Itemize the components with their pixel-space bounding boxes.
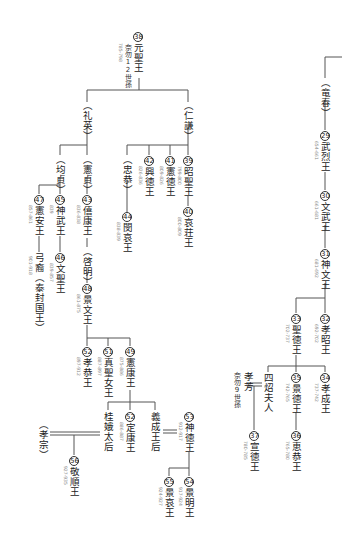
- ancestor-zhonggong: （忠恭）: [122, 155, 132, 195]
- king-node-34: 34孝成王: [320, 373, 330, 414]
- gungye-years: 901-918: [28, 256, 33, 275]
- king-years-51: 897-912: [76, 357, 81, 376]
- king-node-30: 30文武王: [320, 191, 330, 232]
- king-node-56: 56敬順王: [69, 456, 79, 497]
- king-years-50: 887-897: [97, 357, 102, 376]
- guie-queen-node: 桂娥太后: [103, 412, 113, 452]
- ancestor-qiming: （啓明）: [82, 247, 92, 287]
- king-note-38: 奈勿12世孫: [124, 44, 132, 88]
- king-node-51: 52孝恭王: [82, 347, 92, 388]
- yicheng-queen-node: 義成王后: [150, 412, 160, 452]
- king-years-33: 702-737: [285, 324, 290, 343]
- king-years-32: 692-702: [314, 324, 319, 343]
- king-years-54: 917-924: [178, 487, 183, 506]
- king-node-40: 40哀荘王: [183, 207, 193, 248]
- king-node-50: 51真聖女王: [103, 347, 113, 398]
- ancestor-longchun: （竜春）: [320, 78, 330, 118]
- king-years-36: 765-780: [285, 441, 290, 460]
- king-years-30: 661-681: [314, 201, 319, 220]
- king-years-55: 924-927: [158, 487, 163, 506]
- king-node-33: 33聖徳王: [291, 314, 301, 355]
- ancestor-junzhen: （均貞）: [55, 155, 65, 195]
- king-node-36: 36恵恭王: [291, 431, 301, 472]
- king-years-34: 737-742: [314, 383, 319, 402]
- king-node-55: 55景哀王: [164, 477, 174, 518]
- king-years-29: 654-661: [314, 141, 319, 160]
- king-node-43: 43僖康王: [82, 195, 92, 236]
- king-years-46: 839-857: [49, 263, 54, 282]
- king-years-39: 799-800: [177, 166, 182, 185]
- king-node-44: 44閔哀王: [122, 212, 132, 253]
- king-years-52: 886-887: [119, 422, 124, 441]
- king-years-48: 861-875: [76, 294, 81, 313]
- gungye-node: 弓裔（泰封国王）: [34, 253, 44, 333]
- king-years-53: 912-917: [178, 422, 183, 441]
- ancestor-xianzhen: （憲貞）: [82, 155, 92, 195]
- xiaofang-node: 孝芳: [243, 372, 253, 392]
- king-node-54: 54景明王: [184, 477, 194, 518]
- king-node-47: 47憲安王: [34, 195, 44, 236]
- king-years-45: 839: [49, 205, 54, 214]
- king-years-37: 780-785: [243, 441, 248, 460]
- xiaofang-note: 奈勿9世孫: [233, 372, 241, 408]
- king-years-41: 809-826: [159, 166, 164, 185]
- king-node-41: 41憲徳王: [165, 156, 175, 197]
- king-node-38: 38元聖王: [133, 32, 143, 73]
- king-node-37: 37宣徳王: [249, 431, 259, 472]
- king-years-49: 875-886: [119, 357, 124, 376]
- king-node-46: 46文聖王: [55, 253, 65, 294]
- king-node-45: 45神武王: [55, 195, 65, 236]
- king-node-35: 35景徳王: [291, 373, 301, 414]
- king-years-42: 826-836: [138, 166, 143, 185]
- king-years-47: 857-861: [28, 205, 33, 224]
- king-years-40: 800-809: [177, 217, 182, 236]
- king-years-43: 836-838: [76, 205, 81, 224]
- ancestor-liying: （礼英）: [82, 101, 92, 141]
- king-years-56: 927-935: [63, 466, 68, 485]
- king-node-32: 32孝昭王: [320, 314, 330, 355]
- king-node-31: 31神文王: [320, 249, 330, 290]
- king-node-49: 49憲康王: [125, 347, 135, 388]
- king-years-44: 838-839: [116, 222, 121, 241]
- genealogy-diagram: 38元聖王 奈勿12世孫 785-798 （礼英） （仁謙） 39昭聖王 799…: [0, 0, 362, 538]
- king-node-52: 52定康王: [125, 412, 135, 453]
- king-node-42: 42興徳王: [144, 156, 154, 197]
- king-years-35: 742-765: [285, 383, 290, 402]
- king-node-48: 48景文王: [82, 284, 92, 325]
- sishao-lady-node: 四炤夫人: [263, 373, 273, 413]
- king-years-31: 681-692: [314, 259, 319, 278]
- king-node-53: 53神徳王: [184, 412, 194, 453]
- king-years-38: 785-798: [118, 43, 123, 62]
- king-node-29: 29武烈王: [320, 131, 330, 172]
- king-node-39: 39昭聖王: [183, 156, 193, 197]
- ancestor-renqian: （仁謙）: [183, 101, 193, 141]
- ancestor-xiaozong: （孝宗）: [38, 420, 48, 460]
